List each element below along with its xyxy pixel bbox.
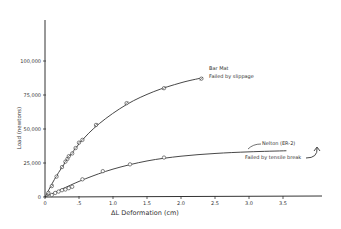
x-tick-label: 0: [43, 200, 46, 206]
x-axis-label: ΔL Deformation (cm): [111, 209, 179, 217]
y-axis-ticks: 025,00050,00075,000100,000: [20, 58, 46, 200]
data-point: [162, 156, 165, 159]
x-tick-label: 1.0: [109, 200, 117, 206]
series-group: [45, 77, 286, 197]
data-point: [81, 178, 84, 181]
data-point: [54, 191, 57, 194]
load-deformation-chart: 025,00050,00075,000100,000 0.51.01.52.02…: [0, 0, 341, 229]
y-axis-label: Load (newtons): [16, 107, 22, 149]
x-tick-label: 1.5: [143, 200, 151, 206]
data-point: [101, 169, 104, 172]
x-tick-label: 3.5: [279, 200, 287, 206]
series-label-nylon: Nelton (ER-2): [262, 140, 295, 146]
data-point: [67, 186, 70, 189]
data-point: [128, 163, 131, 166]
y-tick-label: 50,000: [24, 126, 42, 132]
data-point: [71, 185, 74, 188]
y-tick-label: 25,000: [24, 160, 42, 166]
series-bar-mat: [45, 77, 203, 197]
data-point: [50, 193, 53, 196]
x-axis-ticks: 0.51.01.52.02.53.03.5: [43, 196, 287, 206]
annotations: Bar Mat Failed by slippage Nelton (ER-2)…: [209, 65, 320, 161]
annotation-nylon: Failed by tensile break: [245, 154, 301, 161]
x-tick-label: .5: [77, 200, 82, 206]
series-label-bar-mat: Bar Mat: [209, 65, 229, 71]
y-tick-label: 0: [38, 194, 41, 200]
leader-line-nylon: [248, 144, 261, 149]
data-point: [57, 190, 60, 193]
y-tick-label: 75,000: [24, 92, 42, 98]
annotation-bar-mat: Failed by slippage: [209, 73, 254, 80]
series-line: [45, 78, 201, 197]
data-point: [60, 189, 63, 192]
leader-arrow-nylon: [306, 147, 320, 158]
x-tick-label: 3.0: [245, 200, 253, 206]
x-axis-line: [45, 196, 322, 197]
data-point: [64, 188, 67, 191]
y-tick-label: 100,000: [20, 58, 41, 64]
x-tick-label: 2.5: [211, 200, 219, 206]
x-tick-label: 2.0: [177, 200, 185, 206]
axes: [45, 20, 322, 197]
